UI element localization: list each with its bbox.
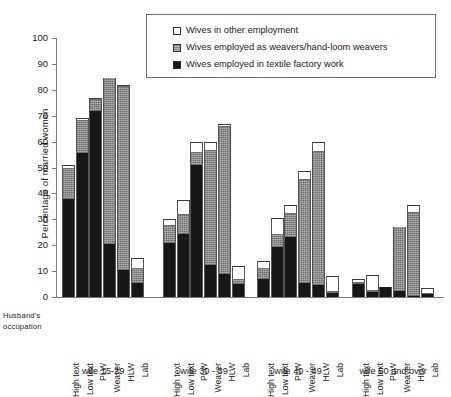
bar-segment-factory bbox=[298, 283, 311, 297]
y-tick-label: 30 bbox=[8, 214, 48, 224]
bar-segment-weavers bbox=[103, 78, 116, 244]
y-tick-label: 70 bbox=[8, 111, 48, 121]
bar-segment-other bbox=[298, 171, 311, 180]
x-tick-label: PLW bbox=[379, 307, 392, 363]
bar bbox=[177, 200, 190, 297]
y-tick-label: 100 bbox=[8, 33, 48, 43]
bar bbox=[393, 227, 406, 297]
bar-segment-other bbox=[232, 266, 245, 280]
bar bbox=[117, 85, 130, 297]
bar-segment-factory bbox=[163, 243, 176, 297]
x-tick-label: Low text bbox=[271, 307, 284, 363]
x-tick-label: HLW bbox=[117, 307, 130, 363]
bar-segment-weavers bbox=[312, 152, 325, 285]
bar-segment-factory bbox=[103, 244, 116, 297]
bar-segment-factory bbox=[190, 165, 203, 297]
x-tick-label: HLW bbox=[218, 307, 231, 363]
bar bbox=[131, 258, 144, 297]
x-tick-label: Weaver bbox=[298, 307, 311, 363]
bar-segment-other bbox=[204, 142, 217, 151]
x-tick-label: Lab bbox=[421, 307, 434, 363]
bar-segment-factory bbox=[131, 283, 144, 297]
x-tick-label: PLW bbox=[190, 307, 203, 363]
bar-segment-other bbox=[131, 258, 144, 268]
bar bbox=[103, 78, 116, 297]
x-axis-group-label: wife 40 - 49 bbox=[257, 366, 339, 376]
bar-segment-factory bbox=[257, 279, 270, 297]
x-tick-label: Weaver bbox=[103, 307, 116, 363]
bar-segment-other bbox=[326, 276, 339, 292]
x-tick-label: HLW bbox=[312, 307, 325, 363]
bar bbox=[232, 266, 245, 297]
x-tick-label: High text bbox=[352, 307, 365, 363]
bar-segment-factory bbox=[76, 153, 89, 297]
bar bbox=[76, 118, 89, 297]
bar-segment-weavers bbox=[298, 180, 311, 282]
x-tick-label: Weaver bbox=[393, 307, 406, 363]
bar bbox=[298, 171, 311, 297]
y-tick-label: 40 bbox=[8, 188, 48, 198]
x-tick-label: High text bbox=[163, 307, 176, 363]
bar-segment-other bbox=[366, 275, 379, 291]
bar-segment-weavers bbox=[190, 153, 203, 165]
bar-segment-weavers bbox=[131, 269, 144, 283]
bar-segment-weavers bbox=[407, 213, 420, 296]
bar-segment-other bbox=[177, 200, 190, 216]
bar bbox=[284, 205, 297, 297]
legend-swatch-factory-icon bbox=[173, 61, 181, 69]
x-tick-label: Lab bbox=[232, 307, 245, 363]
bar-segment-weavers bbox=[117, 87, 130, 270]
bar bbox=[421, 288, 434, 297]
y-tick-label: 60 bbox=[8, 137, 48, 147]
legend-item-factory: Wives employed in textile factory work bbox=[147, 56, 435, 73]
bar bbox=[89, 98, 102, 297]
legend-label-factory: Wives employed in textile factory work bbox=[186, 60, 344, 69]
bar bbox=[366, 275, 379, 297]
bar-segment-factory bbox=[271, 247, 284, 298]
x-axis-group-label: wife 15-29 bbox=[62, 366, 144, 376]
bar bbox=[163, 219, 176, 297]
bar-segment-factory bbox=[312, 285, 325, 297]
bar-segment-weavers bbox=[271, 235, 284, 247]
bar-segment-other bbox=[284, 205, 297, 214]
x-axis-title: Husband's occupation bbox=[3, 310, 55, 332]
bar-segment-other bbox=[407, 205, 420, 213]
bar-segment-factory bbox=[177, 234, 190, 297]
bar-segment-factory bbox=[117, 270, 130, 297]
y-tick-label: 50 bbox=[8, 163, 48, 173]
y-tick-label: 80 bbox=[8, 85, 48, 95]
bar bbox=[271, 218, 284, 297]
bar bbox=[190, 142, 203, 297]
bar-segment-weavers bbox=[76, 121, 89, 153]
bar-segment-weavers bbox=[393, 227, 406, 290]
bar-segment-other bbox=[271, 218, 284, 235]
bar-segment-weavers bbox=[89, 100, 102, 110]
x-axis-line bbox=[56, 297, 444, 298]
x-tick-label: Low text bbox=[366, 307, 379, 363]
x-tick-label: Weaver bbox=[204, 307, 217, 363]
y-tick-label: 20 bbox=[8, 240, 48, 250]
x-tick-label: PLW bbox=[89, 307, 102, 363]
bar-segment-weavers bbox=[257, 269, 270, 279]
bar bbox=[407, 205, 420, 297]
x-tick-label: HLW bbox=[407, 307, 420, 363]
y-tick-label: 90 bbox=[8, 59, 48, 69]
chart-legend: Wives in other employment Wives employed… bbox=[146, 14, 436, 78]
bar-segment-factory bbox=[393, 291, 406, 297]
bar bbox=[218, 124, 231, 298]
bar-segment-weavers bbox=[62, 169, 75, 199]
bar-segment-factory bbox=[204, 265, 217, 297]
bar-segment-weavers bbox=[284, 214, 297, 237]
legend-item-weavers: Wives employed as weavers/hand-loom weav… bbox=[147, 39, 435, 56]
x-axis-group-label: wife 50 and over bbox=[352, 366, 434, 376]
bar bbox=[312, 142, 325, 297]
bar-segment-factory bbox=[326, 293, 339, 297]
x-tick-label: High text bbox=[257, 307, 270, 363]
x-tick-label: Lab bbox=[131, 307, 144, 363]
x-tick-label: Low text bbox=[177, 307, 190, 363]
x-axis-label-row: Husband's occupation High textLow textPL… bbox=[0, 300, 451, 386]
bar-segment-factory bbox=[421, 294, 434, 297]
x-tick-label: Low text bbox=[76, 307, 89, 363]
bar-segment-factory bbox=[407, 296, 420, 297]
bar bbox=[352, 279, 365, 297]
